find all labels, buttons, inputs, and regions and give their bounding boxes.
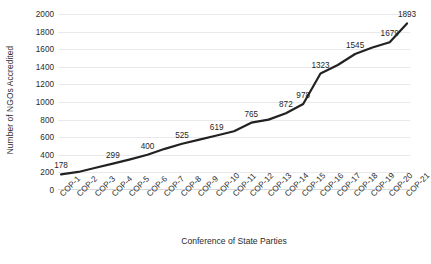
y-axis-tick-label: 1600 <box>36 45 54 54</box>
data-label: 1679 <box>381 29 399 38</box>
data-label: 525 <box>175 131 189 140</box>
data-label: 872 <box>279 100 293 109</box>
y-axis-tick-label: 800 <box>40 115 54 124</box>
data-label: 1893 <box>398 10 416 19</box>
data-label: 299 <box>106 151 120 160</box>
y-axis-tick-label: 1800 <box>36 27 54 36</box>
y-axis-tick-label: 0 <box>49 186 54 195</box>
x-axis-tick-labels: COP-1COP-2COP-3COP-4COP-5COP-6COP-7COP-8… <box>58 190 410 232</box>
data-label: 619 <box>210 123 224 132</box>
y-axis-tick-labels: 0200400600800100012001400160018002000 <box>18 14 54 190</box>
y-axis-tick-label: 1000 <box>36 98 54 107</box>
y-axis-tick-label: 600 <box>40 133 54 142</box>
data-label: 978 <box>296 91 310 100</box>
data-label: 765 <box>244 110 258 119</box>
data-label: 1323 <box>311 61 329 70</box>
y-axis-title-text: Number of NGOs Accredited <box>5 46 15 155</box>
y-axis-tick-label: 400 <box>40 150 54 159</box>
data-label: 400 <box>141 142 155 151</box>
data-label: 178 <box>54 161 68 170</box>
x-axis-title: Conference of State Parties <box>58 236 410 246</box>
y-axis-title: Number of NGOs Accredited <box>0 0 20 200</box>
y-axis-tick-label: 1200 <box>36 80 54 89</box>
data-label: 1545 <box>346 41 364 50</box>
y-axis-tick-label: 200 <box>40 168 54 177</box>
y-axis-tick-label: 2000 <box>36 10 54 19</box>
plot-area: 1782994005256197658729781323154516791893 <box>58 14 410 190</box>
y-axis-tick-label: 1400 <box>36 62 54 71</box>
